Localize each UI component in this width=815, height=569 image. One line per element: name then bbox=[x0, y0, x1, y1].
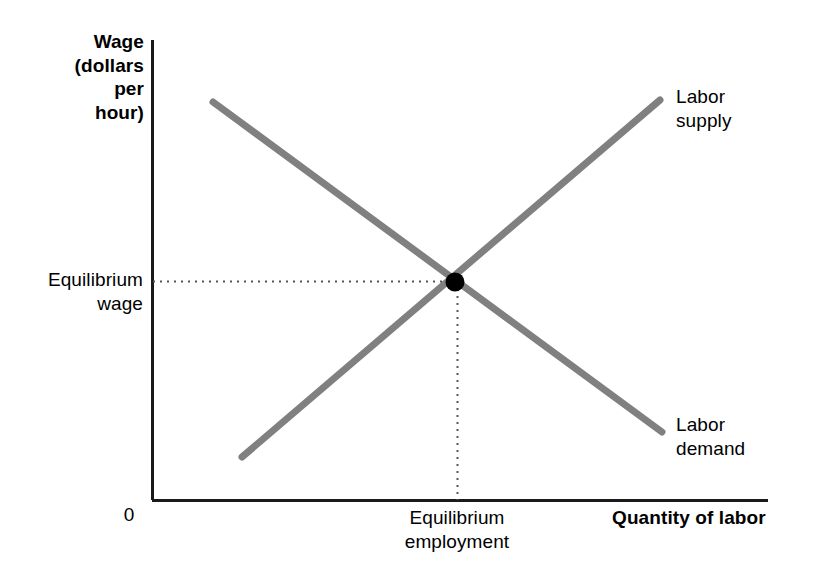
labor-market-equilibrium-figure: Wage (dollars per hour) Equilibrium wage… bbox=[0, 0, 815, 569]
equilibrium-employment-label: Equilibrium employment bbox=[357, 506, 557, 553]
equilibrium-wage-label: Equilibrium wage bbox=[2, 268, 143, 315]
labor-supply-curve-label: Labor supply bbox=[676, 85, 732, 132]
equilibrium-point-marker bbox=[446, 273, 465, 292]
labor-demand-curve-label: Labor demand bbox=[676, 413, 745, 460]
origin-label: 0 bbox=[112, 503, 146, 527]
x-axis-title: Quantity of labor bbox=[612, 506, 766, 530]
y-axis-title: Wage (dollars per hour) bbox=[2, 30, 144, 124]
